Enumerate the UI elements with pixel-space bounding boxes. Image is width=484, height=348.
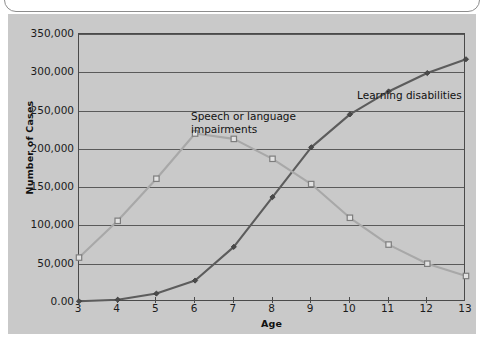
data-point-marker (76, 255, 81, 260)
data-point-marker (425, 261, 430, 266)
y-axis-tick-labels: 350,000300,000250,000200,000150,000100,0… (8, 33, 74, 301)
chart-panel: 350,000300,000250,000200,000150,000100,0… (8, 14, 476, 334)
data-point-marker (463, 273, 468, 278)
x-tick-label: 12 (411, 303, 441, 314)
x-tick-label: 13 (450, 303, 480, 314)
y-tick-label: 300,000 (12, 66, 74, 77)
x-tick-label: 11 (373, 303, 403, 314)
data-point-marker (115, 218, 120, 223)
series-layer (79, 34, 466, 302)
data-point-marker (309, 181, 314, 186)
data-point-marker (463, 57, 468, 62)
y-tick-label: 250,000 (12, 104, 74, 115)
annotation-learning-disabilities: Learning disabilities (357, 89, 462, 102)
y-tick-label: 350,000 (12, 28, 74, 39)
x-tick-label: 8 (257, 303, 287, 314)
y-tick-label: 150,000 (12, 181, 74, 192)
x-tick-label: 10 (334, 303, 364, 314)
x-tick-mark (426, 297, 427, 303)
annotation-speech-or-language-impairments: Speech or language impairments (191, 110, 296, 136)
data-point-marker (270, 156, 275, 161)
x-tick-mark (194, 297, 195, 303)
x-tick-mark (233, 297, 234, 303)
x-tick-label: 4 (102, 303, 132, 314)
y-axis-title: Number of Cases (24, 88, 35, 208)
x-tick-mark (117, 297, 118, 303)
data-point-marker (231, 136, 236, 141)
x-tick-mark (310, 297, 311, 303)
x-tick-label: 6 (179, 303, 209, 314)
x-tick-label: 5 (140, 303, 170, 314)
x-tick-mark (155, 297, 156, 303)
x-tick-label: 7 (218, 303, 248, 314)
x-tick-label: 3 (63, 303, 93, 314)
data-point-marker (154, 176, 159, 181)
x-axis-title: Age (78, 318, 465, 329)
page-top-frame (4, 0, 480, 12)
y-tick-label: 50,000 (12, 257, 74, 268)
x-axis-tick-labels: 345678910111213 (78, 303, 465, 319)
series-line-speech-or-language-impairments (79, 134, 466, 276)
plot-area: Speech or language impairments Learning … (78, 33, 465, 301)
y-tick-label: 200,000 (12, 143, 74, 154)
x-tick-mark (388, 297, 389, 303)
data-point-marker (386, 242, 391, 247)
data-point-marker (347, 215, 352, 220)
data-point-marker (154, 291, 159, 296)
figure-root: 350,000300,000250,000200,000150,000100,0… (0, 0, 484, 348)
x-tick-mark (349, 297, 350, 303)
x-tick-mark (272, 297, 273, 303)
x-tick-label: 9 (295, 303, 325, 314)
y-tick-label: 100,000 (12, 219, 74, 230)
